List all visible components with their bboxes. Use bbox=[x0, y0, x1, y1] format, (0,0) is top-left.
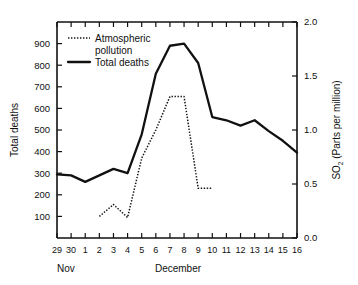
x-tick-label-4: 4 bbox=[125, 245, 130, 255]
series-atmospheric-pollution bbox=[99, 97, 212, 218]
y-tick-label-right-1.0: 1.0 bbox=[304, 124, 317, 135]
y2-title-rest: (Parts per million) bbox=[331, 80, 342, 161]
y-tick-label-right-0.5: 0.5 bbox=[304, 178, 317, 189]
x-tick-label-1: 1 bbox=[83, 245, 88, 255]
x-tick-label-11: 11 bbox=[222, 245, 231, 255]
y-axis-right-title: SO2 (Parts per million) bbox=[331, 80, 344, 179]
legend-label-total-deaths: Total deaths bbox=[95, 57, 149, 68]
y-tick-label-left-800: 800 bbox=[34, 60, 50, 71]
x-tick-label-3: 3 bbox=[111, 245, 116, 255]
y-tick-label-right-0.0: 0.0 bbox=[304, 232, 317, 243]
y-tick-label-left-500: 500 bbox=[34, 124, 50, 135]
x-tick-label-12: 12 bbox=[236, 245, 246, 255]
y-axis-left-tick-labels: 100200300400500600700800900 bbox=[34, 38, 50, 222]
x-tick-label-2: 2 bbox=[97, 245, 102, 255]
y-tick-label-right-2.0: 2.0 bbox=[304, 16, 317, 27]
x-tick-label-13: 13 bbox=[250, 245, 260, 255]
y-tick-label-left-400: 400 bbox=[34, 146, 50, 157]
chart-container: 100200300400500600700800900 0.00.51.01.5… bbox=[0, 0, 358, 285]
y-tick-label-left-300: 300 bbox=[34, 168, 50, 179]
y-axis-left-title: Total deaths bbox=[9, 103, 20, 157]
x-tick-label-15: 15 bbox=[278, 245, 288, 255]
y-tick-label-left-200: 200 bbox=[34, 189, 50, 200]
x-tick-label-30: 30 bbox=[66, 245, 76, 255]
x-tick-label-6: 6 bbox=[153, 245, 158, 255]
legend-label-atmospheric-pollution-line2: pollution bbox=[95, 45, 132, 56]
chart-legend: Atmospheric pollution Total deaths bbox=[68, 33, 151, 68]
x-tick-label-10: 10 bbox=[207, 245, 217, 255]
y-tick-label-left-100: 100 bbox=[34, 211, 50, 222]
x-axis-tick-labels: 293012345678910111213141516 bbox=[52, 245, 302, 255]
london-smog-line-chart: 100200300400500600700800900 0.00.51.01.5… bbox=[0, 0, 358, 285]
x-axis-month-december-label: December bbox=[155, 263, 202, 274]
svg-text:SO2 (Parts per million): SO2 (Parts per million) bbox=[331, 80, 344, 179]
x-tick-label-14: 14 bbox=[264, 245, 274, 255]
series-total-deaths bbox=[57, 44, 297, 182]
y2-title-main: SO bbox=[331, 165, 342, 180]
y-axis-right-tick-labels: 0.00.51.01.52.0 bbox=[304, 16, 317, 243]
x-tick-label-5: 5 bbox=[139, 245, 144, 255]
x-tick-label-8: 8 bbox=[182, 245, 187, 255]
x-axis-month-nov-label: Nov bbox=[57, 263, 75, 274]
x-tick-label-7: 7 bbox=[167, 245, 172, 255]
x-tick-label-9: 9 bbox=[196, 245, 201, 255]
y-tick-label-left-900: 900 bbox=[34, 38, 50, 49]
y-tick-label-right-1.5: 1.5 bbox=[304, 70, 317, 81]
plot-frame bbox=[57, 22, 297, 238]
y-tick-label-left-700: 700 bbox=[34, 81, 50, 92]
x-tick-label-16: 16 bbox=[292, 245, 302, 255]
x-tick-label-29: 29 bbox=[52, 245, 62, 255]
legend-label-atmospheric-pollution-line1: Atmospheric bbox=[95, 33, 151, 44]
y-tick-label-left-600: 600 bbox=[34, 103, 50, 114]
